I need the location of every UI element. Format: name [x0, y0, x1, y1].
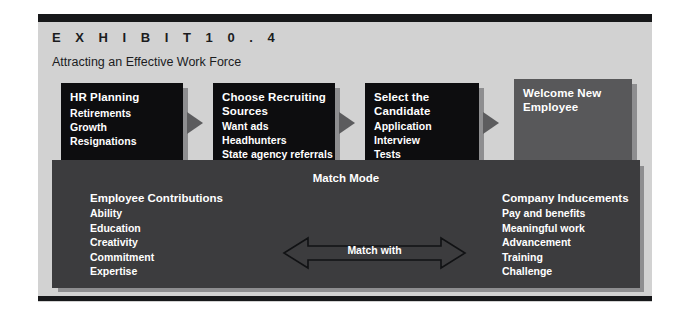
flow-step-items: Application Interview Tests: [374, 119, 479, 161]
triangle-right-icon: [339, 112, 355, 134]
flow-step-item: Headhunters: [222, 133, 335, 147]
company-inducements-item: Challenge: [502, 264, 629, 279]
triangle-right-icon: [483, 112, 499, 134]
company-inducements-item: Meaningful work: [502, 221, 629, 236]
flow-step-item: Want ads: [222, 119, 335, 133]
employee-contributions-column: Employee Contributions Ability Education…: [90, 190, 223, 279]
match-with-label: Match with: [282, 244, 467, 256]
employee-contributions-item: Expertise: [90, 264, 223, 279]
flow-step-select-the-candidate: Select the Candidate Application Intervi…: [365, 83, 479, 163]
flow-step-item: State agency referrals: [222, 147, 335, 161]
employee-contributions-item: Education: [90, 221, 223, 236]
triangle-right-icon: [187, 112, 203, 134]
flow-step-item: Growth: [70, 120, 183, 134]
flow-step-hr-planning: HR Planning Retirements Growth Resignati…: [61, 83, 183, 163]
panel-bottom-rule: [38, 296, 652, 301]
company-inducements-item: Pay and benefits: [502, 206, 629, 221]
exhibit-subtitle: Attracting an Effective Work Force: [52, 55, 241, 69]
panel-top-rule: [38, 14, 652, 22]
employee-contributions-item: Ability: [90, 206, 223, 221]
company-inducements-item: Advancement: [502, 235, 629, 250]
match-mode-panel: Match Mode Employee Contributions Abilit…: [52, 160, 640, 288]
exhibit-figure: E X H I B I T 1 0 . 4 Attracting an Effe…: [0, 0, 690, 322]
flow-step-item: Interview: [374, 133, 479, 147]
match-with-arrow: Match with: [282, 232, 467, 274]
flow-step-title: Select the Candidate: [374, 91, 479, 118]
flow-step-title: Welcome New Employee: [523, 87, 632, 114]
flow-step-item: Resignations: [70, 134, 183, 148]
flow-step-items: Retirements Growth Resignations: [70, 106, 183, 148]
employee-contributions-item: Creativity: [90, 235, 223, 250]
match-mode-heading: Match Mode: [52, 172, 640, 184]
flow-step-items: Want ads Headhunters State agency referr…: [222, 119, 335, 161]
flow-step-welcome-new-employee: Welcome New Employee: [514, 79, 632, 163]
flow-step-item: Retirements: [70, 106, 183, 120]
exhibit-label: E X H I B I T 1 0 . 4: [52, 30, 280, 45]
flow-step-item: Tests: [374, 147, 479, 161]
flow-step-choose-recruiting-sources: Choose Recruiting Sources Want ads Headh…: [213, 83, 335, 163]
flow-step-title: HR Planning: [70, 91, 183, 105]
employee-contributions-item: Commitment: [90, 250, 223, 265]
flow-step-title: Choose Recruiting Sources: [222, 91, 335, 118]
company-inducements-title: Company Inducements: [502, 190, 629, 206]
company-inducements-column: Company Inducements Pay and benefits Mea…: [502, 190, 629, 279]
company-inducements-item: Training: [502, 250, 629, 265]
flow-step-item: Application: [374, 119, 479, 133]
employee-contributions-title: Employee Contributions: [90, 190, 223, 206]
